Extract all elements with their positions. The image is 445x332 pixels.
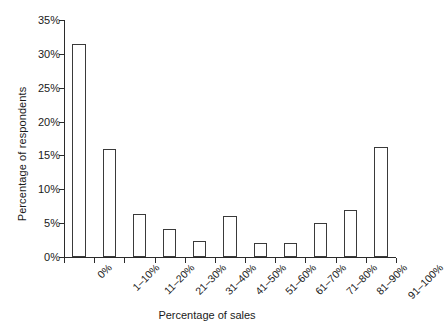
y-axis-tick-label: 0% [24,252,60,263]
bar [72,44,85,257]
bar [163,229,176,257]
x-axis-tick-label: 31–40% [223,262,258,297]
bar [133,214,146,257]
y-axis-tick-label: 20% [24,116,60,127]
x-axis-tick-labels: 0%1–10%11–20%21–30%31–40%41–50%51–60%61–… [64,262,404,312]
bar [344,210,357,257]
x-axis-tick-label: 21–30% [193,262,228,297]
x-axis-tick-label: 51–60% [283,262,318,297]
bar [314,223,327,257]
bar-series [64,20,396,257]
y-axis-tick-labels: 0%5%10%15%20%25%30%35% [24,0,60,332]
x-axis-tick-label: 1–10% [131,262,162,293]
y-axis-tick-label: 25% [24,82,60,93]
x-axis-tick-label: 91–100% [406,262,445,301]
x-axis-title: Percentage of sales [0,309,414,321]
x-axis-tick-label: 41–50% [253,262,288,297]
y-axis-tick-label: 35% [24,15,60,26]
x-axis-tick-label: 81–90% [374,262,409,297]
bar [374,147,387,257]
bar [223,216,236,257]
y-axis-tick-label: 30% [24,48,60,59]
bar [254,243,267,257]
plot-area [64,20,396,257]
y-axis-tick-label: 10% [24,184,60,195]
x-axis-line [64,257,396,258]
bar [284,243,297,257]
bar [193,241,206,257]
x-axis-tick-label: 61–70% [314,262,349,297]
y-axis-tick-label: 5% [24,218,60,229]
x-axis-tick-label: 71–80% [344,262,379,297]
bar [103,149,116,257]
y-axis-tick-label: 15% [24,150,60,161]
x-axis-tick-label: 11–20% [163,262,197,296]
x-axis-tick-label: 0% [96,262,115,281]
